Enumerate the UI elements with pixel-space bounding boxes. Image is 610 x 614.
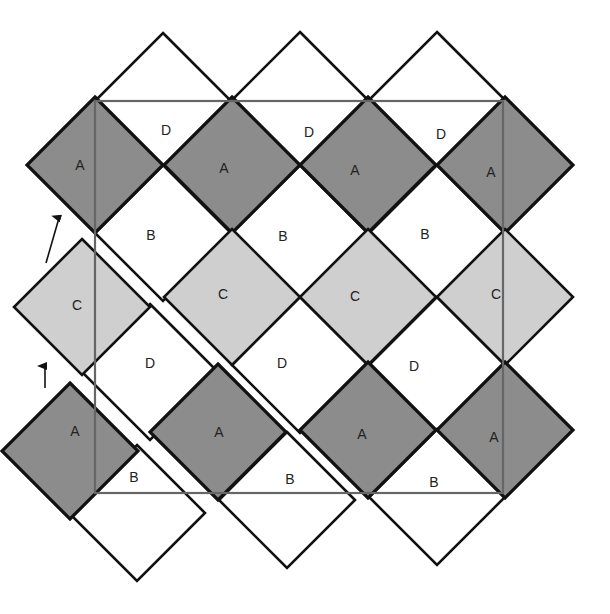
tile-label-a: A (75, 157, 85, 173)
tile-label-a: A (214, 424, 224, 440)
tile-label-a: A (70, 423, 80, 439)
tile-label-a: A (357, 426, 367, 442)
tile-label-d: D (304, 124, 314, 140)
tile-label-c: C (350, 288, 360, 304)
tile-label-d: D (409, 358, 419, 374)
tile-label-d: D (436, 126, 446, 142)
tile-label-b: B (429, 474, 438, 490)
tile-label-a: A (486, 164, 496, 180)
tile-label-b: B (420, 226, 429, 242)
tile-label-d: D (161, 122, 171, 138)
tile-label-c: C (218, 286, 228, 302)
tile-label-a: A (489, 429, 499, 445)
tile-label-a: A (219, 160, 229, 176)
tiling-diagram: DDDAAAABBBCCCCDDDAAAABBB (0, 0, 610, 614)
tile-label-d: D (277, 355, 287, 371)
arrow-diagonal-icon (46, 218, 59, 263)
tiles-layer (2, 32, 573, 581)
tile-label-c: C (72, 297, 82, 313)
tile-label-b: B (285, 471, 294, 487)
tile-label-c: C (491, 286, 501, 302)
tile-label-d: D (145, 355, 155, 371)
tile-label-b: B (146, 227, 155, 243)
tile-label-b: B (278, 228, 287, 244)
tile-label-a: A (350, 162, 360, 178)
diagram-stage: DDDAAAABBBCCCCDDDAAAABBB (0, 0, 610, 614)
tile-label-b: B (129, 469, 138, 485)
